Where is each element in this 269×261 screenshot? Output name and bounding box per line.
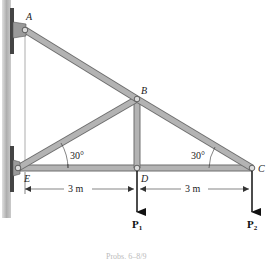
pin-E (15, 165, 21, 171)
pin-C (249, 165, 255, 171)
load-label-P1: P1 (132, 218, 143, 232)
label-B: B (141, 85, 147, 96)
label-C: C (258, 163, 265, 174)
dimension-DC: 3 m (185, 183, 201, 194)
label-E: E (23, 173, 30, 184)
truss-diagram: A B C D E 30° 30° 3 m 3 m P1 P2 Probs. 6… (0, 0, 269, 261)
angle-label-E: 30° (70, 150, 84, 161)
angle-arc-E (61, 143, 68, 168)
figure-caption: Probs. 6–8/9 (106, 252, 146, 261)
angle-label-C: 30° (191, 150, 205, 161)
label-D: D (140, 173, 149, 184)
pin-B (134, 96, 140, 102)
pin-A (22, 27, 28, 33)
label-A: A (25, 11, 33, 22)
pin-D (134, 165, 140, 171)
wall-support (2, 0, 14, 218)
dimension-ED: 3 m (68, 183, 84, 194)
load-label-P2: P2 (247, 218, 258, 232)
